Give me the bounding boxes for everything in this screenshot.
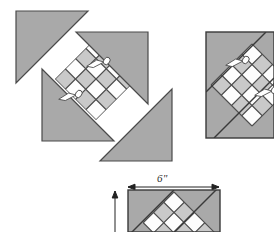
panel-finished-block xyxy=(206,32,274,138)
quilt-block-diagram xyxy=(0,0,274,232)
dimension-label-width: 6" xyxy=(157,172,168,184)
panel-measured-block xyxy=(112,184,220,232)
